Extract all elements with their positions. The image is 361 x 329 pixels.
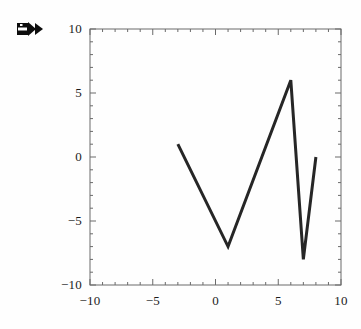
chart-plot: 1050−5−10 −10−50510 (0, 0, 361, 329)
y-tick-label: 10 (42, 22, 82, 35)
y-tick-label: −10 (42, 278, 82, 291)
data-line-path (178, 80, 316, 259)
y-tick-label: −5 (42, 214, 82, 227)
x-tick-label: 5 (253, 294, 303, 307)
y-tick-label: 0 (42, 150, 82, 163)
x-tick-label: 0 (191, 294, 241, 307)
x-tick-label: −5 (128, 294, 178, 307)
plot-page: 1050−5−10 −10−50510 (0, 0, 361, 329)
x-tick-label: 10 (316, 294, 361, 307)
x-tick-label: −10 (65, 294, 115, 307)
data-series (178, 80, 316, 259)
y-tick-label: 5 (42, 86, 82, 99)
